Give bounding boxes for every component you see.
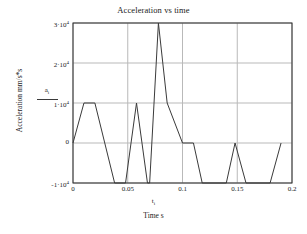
- x-axis-tick-label: 0: [53, 186, 93, 193]
- grid-lines: [73, 23, 292, 183]
- y-axis-tick-label: 2·104: [22, 59, 69, 69]
- chart-figure: Acceleration vs time Acceleration mm/s*s…: [0, 0, 307, 234]
- x-axis-tick-label: 0.15: [217, 186, 257, 193]
- x-axis-tick-label: 0.05: [108, 186, 148, 193]
- chart-title: Acceleration vs time: [0, 5, 307, 15]
- x-axis-label: Time s: [0, 211, 307, 220]
- y-axis-tick-label: 1·104: [22, 99, 69, 109]
- x-axis-variable-label: ti: [0, 197, 307, 206]
- y-axis-tick-label: 0: [22, 139, 69, 146]
- x-axis-tick-label: 0.2: [272, 186, 307, 193]
- series-key-symbol: ai: [30, 86, 64, 97]
- series-key-subscript: i: [48, 90, 49, 95]
- x-axis-tick-label: 0.1: [163, 186, 203, 193]
- y-axis-tick-label: 3·104: [22, 19, 69, 29]
- x-variable-subscript: i: [154, 201, 155, 206]
